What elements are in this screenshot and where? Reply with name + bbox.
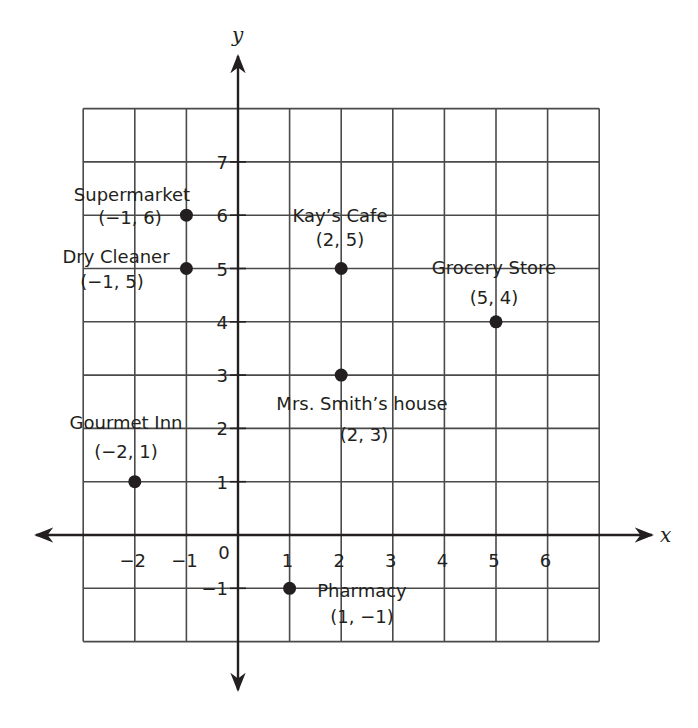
- point-label: Kay’s Cafe(2, 5): [292, 205, 387, 250]
- x-tick-label: 1: [282, 550, 293, 571]
- point-name: Kay’s Cafe: [292, 205, 387, 226]
- point-coordinates: (−1, 5): [80, 271, 143, 292]
- y-axis-label: y: [231, 23, 244, 47]
- point-coordinates: (2, 3): [340, 424, 388, 445]
- y-tick-label: 2: [217, 418, 228, 439]
- y-tick-label: 5: [217, 259, 228, 280]
- point-name: Supermarket: [74, 184, 190, 205]
- data-point-dot: [180, 209, 193, 222]
- x-axis-label: x: [660, 523, 671, 547]
- point-name: Dry Cleaner: [62, 246, 170, 267]
- point-name: Grocery Store: [432, 257, 556, 278]
- y-tick-label: 7: [217, 152, 228, 173]
- point-label: Mrs. Smith’s house(2, 3): [276, 393, 447, 445]
- x-tick-label: 4: [437, 550, 448, 571]
- point-name: Gourmet Inn: [70, 412, 183, 433]
- y-tick-label: 4: [217, 312, 228, 333]
- point-label: Grocery Store(5, 4): [432, 257, 556, 308]
- point-label: Gourmet Inn(−2, 1): [70, 412, 183, 462]
- y-tick-label: 1: [217, 472, 228, 493]
- x-tick-label: 6: [540, 550, 551, 571]
- y-tick-label: 6: [217, 205, 228, 226]
- point-label: Supermarket(−1, 6): [74, 184, 190, 228]
- x-tick-label: 5: [488, 550, 499, 571]
- point-coordinates: (5, 4): [470, 287, 518, 308]
- data-point-dot: [490, 315, 503, 328]
- y-tick-label: 3: [217, 365, 228, 386]
- origin-label: 0: [218, 542, 229, 563]
- point-coordinates: (2, 5): [316, 229, 364, 250]
- x-tick-label: −1: [171, 550, 198, 571]
- y-tick-label: −1: [201, 578, 228, 599]
- x-tick-label: 2: [333, 550, 344, 571]
- x-tick-label: 3: [385, 550, 396, 571]
- point-coordinates: (1, −1): [330, 606, 393, 627]
- data-point-dot: [335, 369, 348, 382]
- data-point-dot: [180, 262, 193, 275]
- coordinate-plane: −2−10123456−11234567 Supermarket(−1, 6)D…: [0, 0, 698, 728]
- point-coordinates: (−2, 1): [94, 441, 157, 462]
- point-label: Pharmacy(1, −1): [317, 580, 407, 627]
- x-tick-label: −2: [120, 550, 147, 571]
- point-name: Mrs. Smith’s house: [276, 393, 447, 414]
- data-point-dot: [283, 582, 296, 595]
- point-coordinates: (−1, 6): [98, 207, 161, 228]
- data-point-dot: [335, 262, 348, 275]
- point-name: Pharmacy: [317, 580, 407, 601]
- data-point-dot: [128, 475, 141, 488]
